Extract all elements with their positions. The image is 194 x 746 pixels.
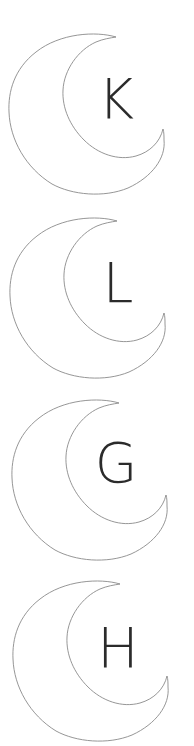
moon-card-3: G bbox=[3, 366, 193, 556]
moon-card-4: H bbox=[4, 547, 194, 737]
moon-letter: K bbox=[86, 72, 146, 127]
moon-letter: L bbox=[88, 256, 148, 311]
moon-letter: H bbox=[88, 621, 148, 676]
moon-card-2: L bbox=[1, 184, 191, 374]
moon-letter: G bbox=[86, 436, 146, 491]
moon-card-1: K bbox=[0, 0, 190, 190]
